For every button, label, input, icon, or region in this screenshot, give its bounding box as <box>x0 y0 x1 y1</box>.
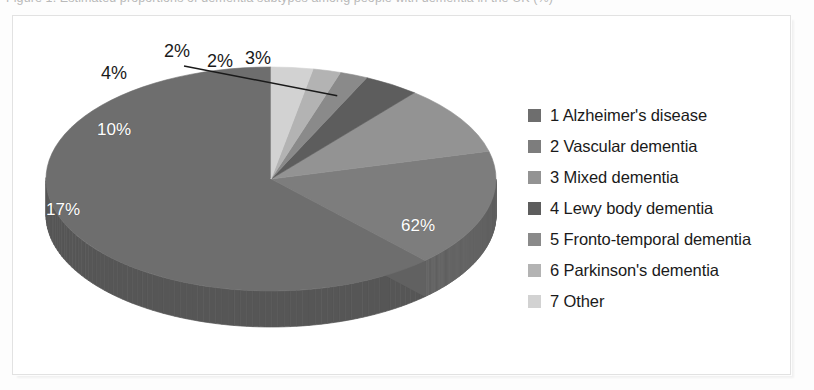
slice-value-vascular: 17% <box>46 200 80 220</box>
legend-swatch-icon <box>528 109 541 122</box>
slice-value-mixed: 10% <box>97 120 131 140</box>
legend-swatch-icon <box>528 295 541 308</box>
slice-value-parkinsons: 2% <box>207 51 233 72</box>
chart-frame: 62% 17% 10% 4% 2% 2% 3% 1 Alzheimer's di… <box>12 15 791 375</box>
legend-swatch-icon <box>528 233 541 246</box>
legend-label: 3 Mixed dementia <box>550 168 679 187</box>
legend-swatch-icon <box>528 140 541 153</box>
legend-swatch-icon <box>528 202 541 215</box>
legend-item[interactable]: 1 Alzheimer's disease <box>528 100 798 131</box>
legend-swatch-icon <box>528 264 541 277</box>
slice-value-alzheimers: 62% <box>401 216 435 236</box>
legend-item[interactable]: 4 Lewy body dementia <box>528 193 798 224</box>
legend-label: 6 Parkinson's dementia <box>550 261 719 280</box>
legend-label: 1 Alzheimer's disease <box>550 106 707 125</box>
pie-chart-area: 62% 17% 10% 4% 2% 2% 3% <box>13 16 553 376</box>
chart-legend: 1 Alzheimer's disease 2 Vascular dementi… <box>528 100 798 317</box>
figure-caption-text: Figure 1. Estimated proportions of demen… <box>6 0 553 5</box>
legend-item[interactable]: 2 Vascular dementia <box>528 131 798 162</box>
legend-item[interactable]: 3 Mixed dementia <box>528 162 798 193</box>
slice-value-other: 3% <box>245 48 271 69</box>
figure-caption-cropped: Figure 1. Estimated proportions of demen… <box>0 0 814 13</box>
legend-label: 7 Other <box>550 292 604 311</box>
legend-label: 4 Lewy body dementia <box>550 199 713 218</box>
slice-value-lewy-body: 4% <box>101 63 127 84</box>
legend-label: 2 Vascular dementia <box>550 137 697 156</box>
legend-label: 5 Fronto-temporal dementia <box>550 230 751 249</box>
slice-value-fronto-temporal: 2% <box>164 41 190 62</box>
legend-item[interactable]: 7 Other <box>528 286 798 317</box>
pie-chart-svg <box>13 16 553 376</box>
legend-item[interactable]: 6 Parkinson's dementia <box>528 255 798 286</box>
chart-page: Figure 1. Estimated proportions of demen… <box>0 0 814 390</box>
legend-item[interactable]: 5 Fronto-temporal dementia <box>528 224 798 255</box>
legend-swatch-icon <box>528 171 541 184</box>
